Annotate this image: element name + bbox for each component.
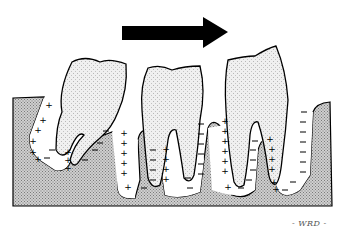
svg-text:+: +: [266, 134, 274, 144]
svg-text:+: +: [29, 136, 37, 146]
svg-text:+: +: [120, 158, 128, 168]
svg-text:+: +: [120, 168, 128, 178]
svg-text:+: +: [221, 136, 229, 146]
tooth-drift-diagram: +++ +++ +++ +++ +++ ++++ +++ +++ + +++ +…: [0, 0, 347, 236]
drift-direction-arrow-icon: [122, 17, 228, 48]
svg-text:+: +: [120, 138, 128, 148]
artist-signature: - WRD -: [292, 219, 327, 228]
svg-text:+: +: [268, 154, 276, 164]
svg-text:+: +: [224, 182, 232, 192]
svg-text:+: +: [221, 166, 229, 176]
svg-text:+: +: [268, 164, 276, 174]
svg-text:+: +: [64, 163, 72, 173]
svg-text:+: +: [221, 146, 229, 156]
svg-text:+: +: [39, 115, 47, 125]
svg-text:+: +: [221, 116, 229, 126]
svg-text:+: +: [268, 144, 276, 154]
diagram-svg: +++ +++ +++ +++ +++ ++++ +++ +++ + +++ +…: [0, 0, 347, 236]
svg-text:+: +: [272, 184, 280, 194]
svg-text:+: +: [34, 125, 42, 135]
svg-text:+: +: [45, 100, 53, 110]
svg-text:+: +: [120, 128, 128, 138]
svg-text:+: +: [162, 164, 170, 174]
svg-text:+: +: [162, 174, 170, 184]
svg-text:+: +: [162, 154, 170, 164]
svg-text:+: +: [120, 148, 128, 158]
svg-text:+: +: [34, 154, 42, 164]
svg-text:+: +: [221, 156, 229, 166]
svg-text:+: +: [124, 182, 132, 192]
svg-text:+: +: [162, 144, 170, 154]
svg-text:+: +: [221, 126, 229, 136]
